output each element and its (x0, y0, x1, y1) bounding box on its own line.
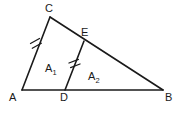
vertex-label-d: D (60, 91, 68, 103)
segment-ac (22, 17, 50, 90)
vertex-label-b: B (165, 91, 172, 103)
region-label-a1-subscript: 1 (53, 68, 57, 77)
tick-mark-ac-1 (31, 39, 40, 44)
region-label-a2-subscript: 2 (96, 76, 100, 85)
tick-mark-ac-2 (32, 43, 41, 48)
segment-cb (50, 17, 163, 90)
geometry-canvas: A B C D E A 1 A 2 (0, 0, 182, 113)
vertex-label-c: C (45, 2, 53, 14)
region-label-a1: A 1 (45, 62, 57, 77)
vertex-label-a: A (9, 91, 17, 103)
vertex-label-e: E (81, 26, 88, 38)
region-label-a2: A 2 (88, 70, 100, 85)
geometry-figure: A B C D E A 1 A 2 (0, 0, 182, 113)
